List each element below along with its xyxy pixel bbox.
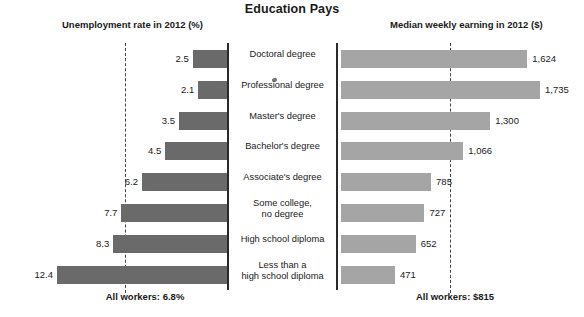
category-label-line: Master's degree <box>229 111 336 122</box>
earning-value-label: 727 <box>429 206 445 220</box>
unemployment-bar <box>121 204 227 222</box>
category-label: Master's degree <box>229 111 336 122</box>
chart-row: 8.3652High school diploma <box>0 229 584 259</box>
earning-bar <box>341 173 431 191</box>
category-label-line: Associate's degree <box>229 172 336 183</box>
unemployment-bar <box>179 112 227 130</box>
category-label-line: Doctoral degree <box>229 49 336 60</box>
earning-bar <box>341 204 424 222</box>
earning-bar <box>341 50 527 68</box>
chart-row: 6.2785Associate's degree <box>0 167 584 197</box>
unemployment-value-label: 2.1 <box>181 83 194 97</box>
category-label-line: Some college, <box>229 198 336 209</box>
earning-bar <box>341 266 395 284</box>
earning-value-label: 1,300 <box>495 114 519 128</box>
category-label: Less than ahigh school diploma <box>229 260 336 282</box>
earning-value-label: 652 <box>421 237 437 251</box>
category-label: High school diploma <box>229 234 336 245</box>
right-panel-title: Median weekly earning in 2012 ($) <box>390 19 543 30</box>
unemployment-bar <box>142 173 227 191</box>
unemployment-bar <box>165 142 227 160</box>
unemployment-value-label: 12.4 <box>34 268 53 282</box>
unemployment-value-label: 6.2 <box>125 175 138 189</box>
unemployment-value-label: 8.3 <box>96 237 109 251</box>
chart-row: 3.51,300Master's degree <box>0 106 584 136</box>
earning-value-label: 1,066 <box>468 144 492 158</box>
chart-row: 4.51,066Bachelor's degree <box>0 136 584 166</box>
left-panel-title: Unemployment rate in 2012 (%) <box>62 19 203 30</box>
earning-value-label: 785 <box>436 175 452 189</box>
chart-row: 12.4471Less than ahigh school diploma <box>0 260 584 290</box>
education-pays-chart: Education Pays Unemployment rate in 2012… <box>0 0 584 317</box>
earning-bar <box>341 112 490 130</box>
unemployment-value-label: 3.5 <box>162 114 175 128</box>
chart-row: 7.7727Some college,no degree <box>0 198 584 228</box>
category-label-line: Less than a <box>229 260 336 271</box>
category-label: Associate's degree <box>229 172 336 183</box>
chart-row: 2.11,735Professional degree <box>0 75 584 105</box>
earning-bar <box>341 142 463 160</box>
right-footer-note: All workers: $815 <box>370 291 540 302</box>
unemployment-value-label: 7.7 <box>104 206 117 220</box>
earning-value-label: 1,624 <box>532 52 556 66</box>
left-footer-note: All workers: 6.8% <box>60 291 230 302</box>
chart-title: Education Pays <box>0 2 584 16</box>
earning-bar <box>341 235 416 253</box>
unemployment-value-label: 4.5 <box>148 144 161 158</box>
unemployment-bar <box>57 266 227 284</box>
category-label: Some college,no degree <box>229 198 336 220</box>
category-label: Bachelor's degree <box>229 141 336 152</box>
unemployment-bar <box>113 235 227 253</box>
category-label: Professional degree <box>229 80 336 91</box>
unemployment-bar <box>198 81 227 99</box>
category-label-line: high school diploma <box>229 271 336 282</box>
unemployment-value-label: 2.5 <box>176 52 189 66</box>
category-label: Doctoral degree <box>229 49 336 60</box>
earning-value-label: 471 <box>400 268 416 282</box>
category-label-line: no degree <box>229 209 336 220</box>
category-label-line: Professional degree <box>229 80 336 91</box>
unemployment-bar <box>193 50 227 68</box>
chart-row: 2.51,624Doctoral degree <box>0 44 584 74</box>
category-label-line: Bachelor's degree <box>229 141 336 152</box>
category-label-line: High school diploma <box>229 234 336 245</box>
earning-value-label: 1,735 <box>545 83 569 97</box>
earning-bar <box>341 81 540 99</box>
